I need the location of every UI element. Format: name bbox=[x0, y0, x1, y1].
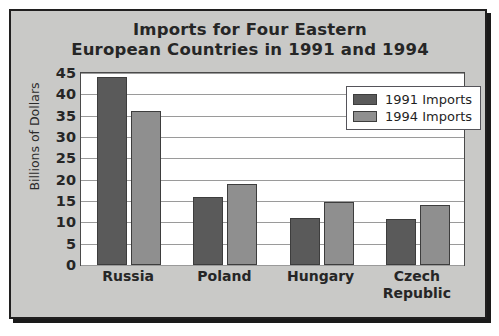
bar-poland-1994 bbox=[227, 184, 257, 265]
legend-swatch-1994 bbox=[353, 111, 377, 122]
legend-label-1994: 1994 Imports bbox=[385, 109, 472, 124]
y-axis-tick-labels: 454035302520151050 bbox=[28, 72, 76, 266]
legend-item-1994: 1994 Imports bbox=[353, 108, 472, 125]
x-axis-tick-labels: RussiaPolandHungaryCzechRepublic bbox=[80, 268, 465, 316]
x-tick-label-russia: Russia bbox=[80, 268, 176, 285]
gridline-0 bbox=[81, 265, 464, 266]
y-tick-label-30: 30 bbox=[30, 130, 76, 145]
y-tick-label-5: 5 bbox=[30, 237, 76, 252]
bar-russia-1994 bbox=[131, 111, 161, 265]
x-tick-label-line-2: Republic bbox=[369, 285, 465, 302]
bar-hungary-1991 bbox=[290, 218, 320, 265]
legend-label-1991: 1991 Imports bbox=[385, 92, 472, 107]
plot-area: 1991 Imports1994 Imports bbox=[80, 72, 465, 266]
legend-swatch-1991 bbox=[353, 94, 377, 105]
chart-title: Imports for Four Eastern European Countr… bbox=[11, 20, 489, 60]
chart-figure-frame: Imports for Four Eastern European Countr… bbox=[9, 9, 487, 319]
bar-czech-republic-1994 bbox=[420, 205, 450, 265]
x-tick-label-hungary: Hungary bbox=[273, 268, 369, 285]
legend-item-1991: 1991 Imports bbox=[353, 91, 472, 108]
x-tick-label-line-1: Russia bbox=[80, 268, 176, 285]
y-tick-label-40: 40 bbox=[30, 87, 76, 102]
bar-hungary-1994 bbox=[324, 202, 354, 265]
x-tick-label-line-1: Poland bbox=[176, 268, 272, 285]
y-tick-label-20: 20 bbox=[30, 173, 76, 188]
x-tick-label-line-1: Hungary bbox=[273, 268, 369, 285]
chart-title-line-2: European Countries in 1991 and 1994 bbox=[11, 40, 489, 60]
y-tick-label-10: 10 bbox=[30, 215, 76, 230]
y-tick-label-0: 0 bbox=[30, 258, 76, 273]
bar-poland-1991 bbox=[193, 197, 223, 265]
x-tick-label-line-1: Czech bbox=[369, 268, 465, 285]
chart-legend: 1991 Imports1994 Imports bbox=[346, 86, 481, 130]
bar-russia-1991 bbox=[97, 77, 127, 265]
x-tick-label-czech: CzechRepublic bbox=[369, 268, 465, 302]
y-tick-label-35: 35 bbox=[30, 109, 76, 124]
x-tick-label-poland: Poland bbox=[176, 268, 272, 285]
chart-title-line-1: Imports for Four Eastern bbox=[11, 20, 489, 40]
bar-czech-republic-1991 bbox=[386, 219, 416, 265]
y-tick-label-45: 45 bbox=[30, 66, 76, 81]
y-tick-label-15: 15 bbox=[30, 194, 76, 209]
y-tick-label-25: 25 bbox=[30, 151, 76, 166]
